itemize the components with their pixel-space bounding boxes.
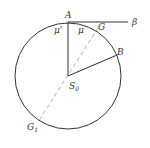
label-beta: β — [131, 17, 137, 27]
label-mu: μ — [78, 25, 84, 35]
label-s0: S0 — [69, 81, 79, 92]
geometry-diagram: A β μ' μ G B S0 G1 — [0, 0, 150, 148]
radius-s0-b — [68, 55, 117, 76]
label-mu-prime: μ' — [54, 25, 62, 35]
label-g: G — [98, 22, 105, 32]
label-g1: G1 — [27, 122, 38, 133]
label-a: A — [64, 10, 72, 20]
label-b: B — [116, 47, 124, 57]
